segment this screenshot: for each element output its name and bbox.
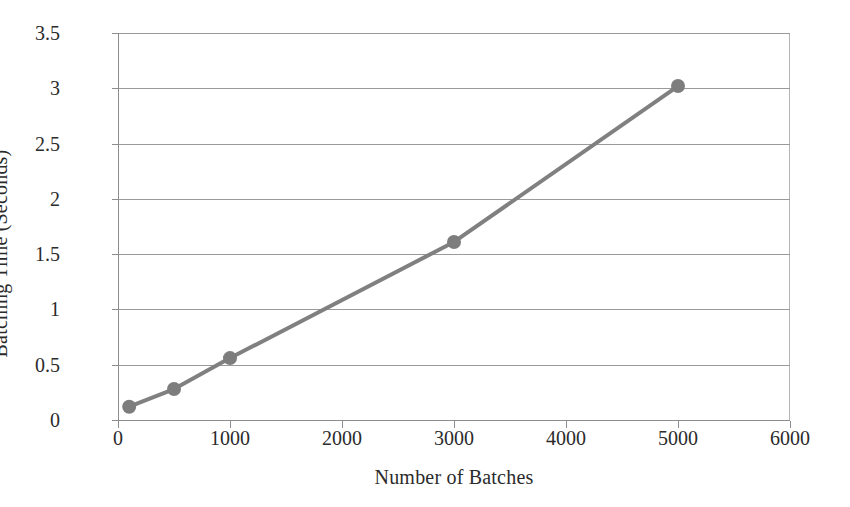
y-tick-label: 2.5 xyxy=(0,134,60,154)
y-tick-label: 3 xyxy=(0,78,60,98)
gridline xyxy=(118,365,790,366)
gridline xyxy=(118,309,790,310)
x-tick-label: 3000 xyxy=(434,428,474,448)
y-tick-mark xyxy=(112,33,119,34)
x-tick-label: 1000 xyxy=(210,428,250,448)
plot-right-border xyxy=(789,33,790,421)
data-point-marker xyxy=(671,79,685,93)
line-chart: Batching Time (Seconds) 00.511.522.533.5… xyxy=(0,0,850,507)
x-tick-mark xyxy=(342,421,343,428)
x-tick-label: 0 xyxy=(113,428,123,448)
data-point-marker xyxy=(167,382,181,396)
x-axis-title: Number of Batches xyxy=(118,466,790,489)
y-tick-label: 1.5 xyxy=(0,244,60,264)
x-tick-mark xyxy=(230,421,231,428)
y-tick-label: 0.5 xyxy=(0,355,60,375)
y-tick-label: 0 xyxy=(0,410,60,430)
y-tick-label: 1 xyxy=(0,299,60,319)
gridline xyxy=(118,33,790,34)
y-tick-mark xyxy=(112,199,119,200)
x-tick-mark xyxy=(454,421,455,428)
data-point-marker xyxy=(122,400,136,414)
x-tick-mark xyxy=(678,421,679,428)
y-tick-mark xyxy=(112,365,119,366)
y-tick-label: 2 xyxy=(0,189,60,209)
x-tick-label: 2000 xyxy=(322,428,362,448)
series-line xyxy=(129,86,678,407)
data-point-marker xyxy=(447,235,461,249)
gridline xyxy=(118,254,790,255)
gridline xyxy=(118,88,790,89)
x-tick-mark xyxy=(118,421,119,428)
gridline xyxy=(118,199,790,200)
y-tick-mark xyxy=(112,254,119,255)
x-tick-label: 4000 xyxy=(546,428,586,448)
y-tick-mark xyxy=(112,88,119,89)
y-tick-mark xyxy=(112,144,119,145)
x-tick-label: 6000 xyxy=(770,428,810,448)
x-tick-mark xyxy=(566,421,567,428)
x-tick-label: 5000 xyxy=(658,428,698,448)
data-point-marker xyxy=(223,351,237,365)
y-axis-line xyxy=(118,33,119,421)
gridline xyxy=(118,144,790,145)
y-tick-mark xyxy=(112,309,119,310)
x-tick-mark xyxy=(790,421,791,428)
y-tick-label: 3.5 xyxy=(0,23,60,43)
